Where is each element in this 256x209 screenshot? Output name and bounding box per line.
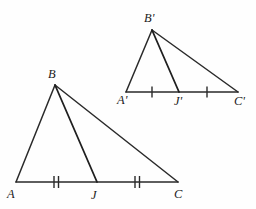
- vertex-label-j-prime: J': [174, 94, 183, 108]
- geometry-figure: A' B' C' J' A B C J: [0, 0, 256, 209]
- vertex-label-c: C: [174, 187, 183, 201]
- vertex-label-a-prime: A': [116, 93, 128, 107]
- side-a-prime-b-prime: [126, 30, 152, 92]
- cevian-bj: [55, 85, 97, 182]
- side-ab: [16, 85, 55, 182]
- vertex-label-c-prime: C': [234, 94, 245, 108]
- geometry-diagram-canvas: A' B' C' J' A B C J: [0, 0, 256, 209]
- vertex-label-a: A: [6, 187, 15, 201]
- triangle-abc: A B C J: [6, 67, 183, 202]
- vertex-label-j: J: [91, 188, 98, 202]
- vertex-label-b-prime: B': [144, 11, 155, 25]
- vertex-label-b: B: [48, 67, 56, 81]
- triangle-a-prime-b-prime-c-prime: A' B' C' J': [116, 11, 245, 108]
